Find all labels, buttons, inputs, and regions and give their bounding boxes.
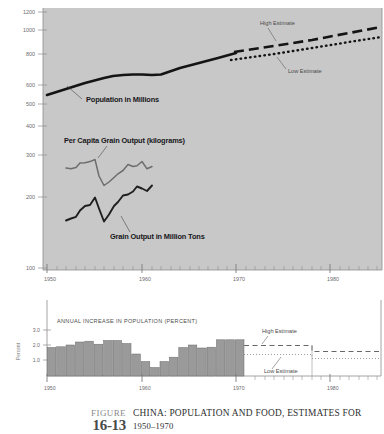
bar-1954 (85, 341, 94, 376)
y-tick-label-100: 100 (26, 265, 35, 271)
x-tick-label-1980: 1980 (327, 276, 339, 282)
y-tick-label-500: 500 (26, 101, 35, 107)
y-tick-label-1-0: 1.0 (33, 357, 40, 363)
bottom-panel-y-axis-label: Percent (16, 342, 21, 360)
bar-1951 (57, 347, 66, 376)
top-panel-x-tick-labels: 1950 1960 1970 1980 (44, 276, 339, 282)
figure-caption: FIGURE 16-13 CHINA: POPULATION AND FOOD,… (91, 408, 362, 433)
figure-china-population-food: 100 200 300 400 500 600 800 1000 1200 (0, 0, 384, 434)
y-tick-label-300: 300 (26, 152, 35, 158)
top-panel: 100 200 300 400 500 600 800 1000 1200 (23, 8, 382, 282)
bottom-panel-x-minor-ticks (255, 376, 377, 380)
y-tick-label-400: 400 (26, 123, 35, 129)
annual-increase-bars (47, 340, 244, 376)
bar-1959 (132, 354, 141, 376)
bar-1968 (216, 340, 225, 376)
bar-1964 (179, 348, 188, 377)
bottom-x-tick-label-1980: 1980 (327, 385, 339, 391)
bottom-panel: 1.0 2.0 3.0 Percent ANNUAL INCREASE IN P… (16, 300, 381, 391)
y-tick-label-1000: 1000 (23, 27, 35, 33)
bar-1953 (75, 342, 84, 376)
bar-1957 (113, 341, 122, 377)
bar-1950 (47, 348, 56, 377)
bottom-x-tick-label-1970: 1970 (233, 385, 245, 391)
low-estimate-label-top: Low Estimate (288, 68, 322, 74)
x-tick-label-1970: 1970 (233, 276, 245, 282)
caption-line-1: CHINA: POPULATION AND FOOD, ESTIMATES FO… (133, 408, 362, 418)
y-tick-label-2-0: 2.0 (33, 342, 40, 348)
y-tick-label-1200: 1200 (23, 9, 35, 15)
bar-1967 (207, 347, 216, 376)
bar-1956 (104, 341, 113, 377)
population-series-label: Population in Millions (86, 95, 159, 104)
caption-figure-number: 16-13 (93, 417, 127, 433)
low-estimate-label-bottom: Low Estimate (264, 368, 298, 374)
bar-1958 (122, 344, 131, 377)
bar-1962 (160, 362, 169, 377)
bar-1965 (188, 345, 197, 376)
bar-1963 (169, 357, 178, 376)
x-tick-label-1960: 1960 (139, 276, 151, 282)
bar-1970 (235, 340, 244, 376)
annual-increase-high-estimate-line (244, 346, 381, 352)
y-tick-label-3-0: 3.0 (33, 327, 40, 333)
high-estimate-label-bottom: High Estimate (262, 328, 297, 334)
x-tick-label-1950: 1950 (44, 276, 56, 282)
per-capita-series-label: Per Capita Grain Output (kilograms) (64, 136, 186, 145)
bottom-panel-title: ANNUAL INCREASE IN POPULATION (PERCENT) (57, 318, 197, 324)
bar-1952 (66, 345, 75, 376)
grain-output-series-label: Grain Output in Million Tons (110, 232, 205, 241)
bar-1955 (94, 344, 103, 376)
y-tick-label-600: 600 (26, 82, 35, 88)
high-estimate-label-top: High Estimate (260, 20, 295, 26)
y-tick-label-800: 800 (26, 51, 35, 57)
bottom-x-tick-label-1950: 1950 (44, 385, 56, 391)
high-estimate-leader-bottom (262, 336, 268, 344)
annual-increase-low-estimate-line (244, 355, 381, 359)
caption-line-2: 1950–1970 (133, 421, 173, 431)
bar-1960 (141, 362, 150, 377)
bottom-x-tick-label-1960: 1960 (139, 385, 151, 391)
y-tick-label-200: 200 (26, 194, 35, 200)
bottom-panel-x-tick-labels: 1950 1960 1970 1980 (44, 385, 339, 391)
bar-1966 (198, 348, 207, 376)
bar-1961 (151, 368, 160, 377)
bar-1969 (226, 340, 235, 376)
